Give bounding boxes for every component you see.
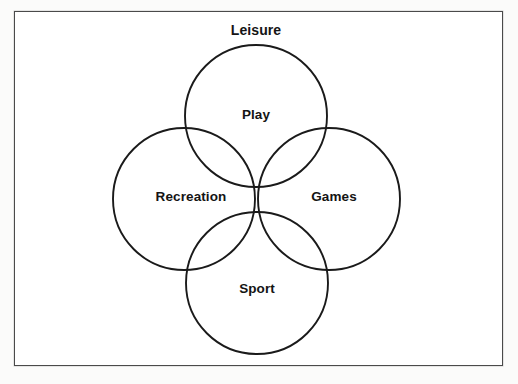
venn-label-games: Games bbox=[311, 189, 357, 204]
venn-label-sport: Sport bbox=[239, 281, 275, 296]
diagram-title-leisure: Leisure bbox=[231, 22, 282, 38]
venn-label-play: Play bbox=[242, 107, 270, 122]
venn-label-recreation: Recreation bbox=[156, 189, 227, 204]
venn-diagram-figure: Leisure Play Recreation Games Sport bbox=[0, 0, 518, 384]
venn-circles-svg bbox=[0, 0, 518, 384]
